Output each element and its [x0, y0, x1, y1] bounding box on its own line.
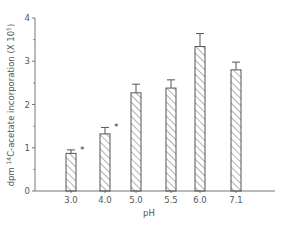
y-axis-title: dpm 14C-acetate incorporation (X 105): [5, 24, 17, 187]
bar-5.5: [166, 80, 176, 191]
x-tick-label: 5.0: [129, 195, 143, 205]
bar-7.1: [231, 62, 241, 191]
x-tick-label: 5.5: [164, 195, 178, 205]
x-axis-title: pH: [143, 208, 155, 218]
y-tick-label: 2: [25, 100, 30, 110]
x-tick-label: 4.0: [98, 195, 112, 205]
bar-chart: 01234 3.04.05.05.56.07.1 ** pH dpm 14C-a…: [0, 0, 284, 232]
x-tick-label: 3.0: [64, 195, 78, 205]
bars: **: [66, 34, 241, 191]
y-tick-label: 1: [25, 143, 30, 153]
bar-4.0: *: [100, 122, 119, 191]
y-axis: 01234: [25, 13, 35, 196]
significance-marker: *: [80, 145, 85, 155]
y-tick-label: 4: [25, 13, 30, 23]
x-tick-label: 7.1: [229, 195, 243, 205]
x-tick-label: 6.0: [193, 195, 207, 205]
bar-6.0: [195, 34, 205, 191]
y-tick-label: 0: [25, 186, 30, 196]
x-axis: 3.04.05.05.56.07.1: [35, 191, 275, 205]
y-tick-label: 3: [25, 56, 30, 66]
significance-marker: *: [114, 122, 119, 132]
bar-3.0: *: [66, 145, 85, 191]
bar-5.0: [131, 84, 141, 191]
